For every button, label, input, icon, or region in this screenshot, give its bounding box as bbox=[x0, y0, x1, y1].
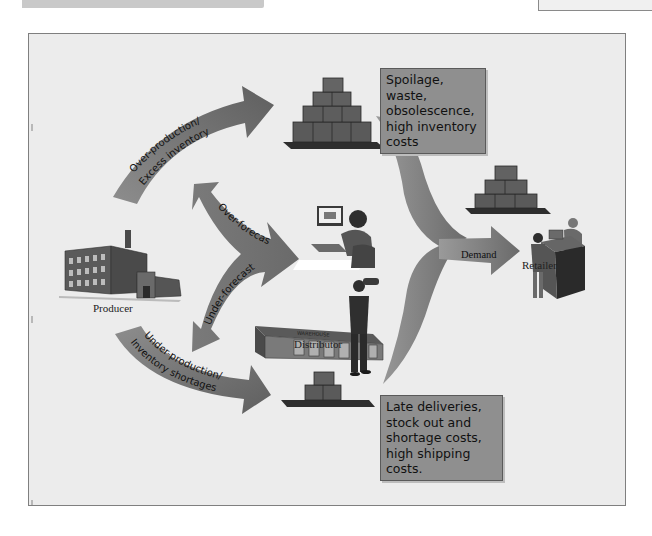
over-production-arrow: Over-production/ Excess inventory bbox=[113, 86, 274, 204]
factory-icon bbox=[59, 230, 181, 302]
page-header-strip bbox=[22, 0, 264, 8]
scan-artifact bbox=[31, 500, 33, 505]
retailer-label: Retailer bbox=[522, 259, 557, 271]
svg-text:Over-forecast: Over-forecast bbox=[29, 34, 272, 246]
scan-artifact bbox=[31, 316, 33, 323]
excess-inventory-stack-icon bbox=[283, 78, 385, 149]
shortage-inventory-stack-icon bbox=[281, 372, 375, 407]
diagram-frame: Over-production/ Excess inventory Under-… bbox=[28, 33, 626, 506]
over-forecast-label: Over-forecast bbox=[29, 34, 272, 246]
scan-artifact bbox=[31, 124, 33, 131]
shortage-consequences-note: Late deliveries, stock out and shortage … bbox=[380, 395, 503, 481]
distributor-with-binoculars-icon bbox=[349, 278, 379, 376]
demand-label: Demand bbox=[461, 249, 497, 260]
producer-label: Producer bbox=[93, 302, 133, 314]
forecast-fork-arrow: Over-forecast Under-forecast bbox=[29, 34, 299, 352]
retailer-inventory-stack-icon bbox=[465, 166, 551, 214]
distributor-label: Distributor bbox=[294, 338, 342, 350]
page-corner-box bbox=[538, 0, 652, 11]
forecaster-at-computer-icon bbox=[293, 206, 375, 270]
demand-arrow: Demand bbox=[376, 116, 520, 384]
excess-consequences-note: Spoilage, waste, obsolescence, high inve… bbox=[380, 68, 486, 154]
